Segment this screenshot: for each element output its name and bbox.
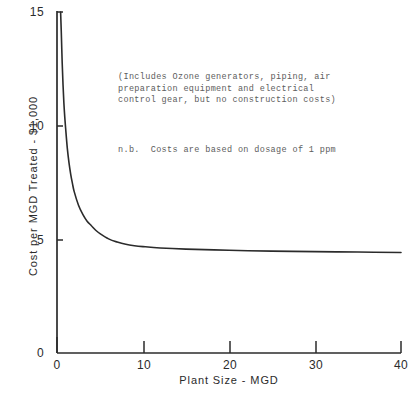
x-tick-label-10: 10 xyxy=(137,358,151,372)
y-axis-title: Cost per MGD Treated - $1,000 xyxy=(27,71,39,301)
x-axis-title: Plant Size - MGD xyxy=(57,374,401,386)
x-tick-label-20: 20 xyxy=(223,358,237,372)
annotation-includes: (Includes Ozone generators, piping, air … xyxy=(118,72,336,107)
cost-curve-line xyxy=(61,12,401,253)
annotation-includes-line1: (Includes Ozone generators, piping, air xyxy=(118,72,331,82)
y-tick-label-15: 15 xyxy=(18,5,44,19)
annotation-includes-line3: control gear, but no construction costs) xyxy=(118,95,336,105)
y-tick-label-0: 0 xyxy=(18,346,44,360)
x-tick-label-40: 40 xyxy=(394,358,408,372)
chart-plot-area xyxy=(0,0,411,397)
x-axis-ticks xyxy=(57,337,401,353)
x-tick-label-30: 30 xyxy=(309,358,323,372)
annotation-nb: n.b. Costs are based on dosage of 1 ppm xyxy=(118,145,336,157)
chart-figure: 15 10 5 0 0 10 20 30 40 Cost per MGD Tre… xyxy=(0,0,411,397)
annotation-includes-line2: preparation equipment and electrical xyxy=(118,84,314,94)
x-tick-label-0: 0 xyxy=(53,358,60,372)
